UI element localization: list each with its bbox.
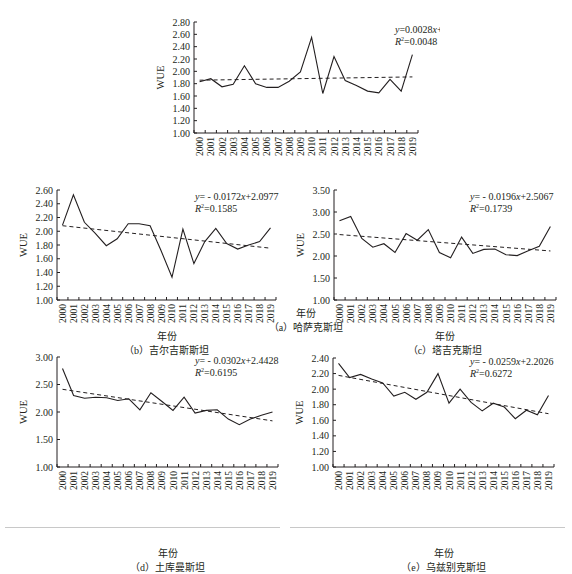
x-tick-label: 2016: [513, 304, 523, 323]
trend-line: [339, 375, 549, 413]
x-tick-label: 2017: [524, 304, 534, 323]
x-tick-label: 2014: [490, 304, 500, 323]
y-tick-label: 1.80: [36, 240, 54, 251]
x-tick-label: 2005: [113, 304, 123, 323]
x-tick-label: 2003: [368, 304, 378, 323]
y-tick-label: 1.80: [173, 78, 191, 89]
wue-line: [339, 363, 549, 418]
y-tick-label: 1.00: [36, 462, 54, 473]
trend-line: [340, 235, 551, 251]
x-tick-label: 2000: [335, 304, 345, 323]
x-tick-label: 2001: [69, 471, 79, 490]
x-tick-label: 2016: [235, 471, 245, 490]
y-axis-title: WUE: [18, 400, 29, 424]
x-tick-label: 2007: [135, 471, 145, 490]
wue-line: [63, 195, 271, 277]
y-tick-label: 3.00: [313, 207, 331, 218]
y-tick-label: 1.50: [313, 273, 331, 284]
axes: [57, 190, 276, 300]
x-axis-title: 年份: [57, 545, 278, 560]
y-tick-label: 2.50: [313, 229, 331, 240]
chart-svg: 1.001.201.401.601.802.002.202.402.602000…: [0, 150, 290, 350]
x-tick-label: 2000: [58, 471, 68, 490]
chart-caption: （d）土库曼斯坦: [57, 559, 278, 574]
x-tick-label: 2017: [244, 304, 254, 323]
r-squared: R2=0.1585: [194, 203, 237, 214]
x-tick-label: 2015: [502, 304, 512, 323]
y-tick-label: 1.80: [312, 399, 330, 410]
x-tick-label: 2002: [80, 304, 90, 323]
y-tick-label: 1.00: [36, 295, 54, 306]
wue-line: [200, 37, 413, 93]
x-tick-label: 2001: [69, 304, 79, 323]
x-tick-label: 2004: [379, 304, 389, 323]
x-tick-label: 2000: [58, 304, 68, 323]
x-tick-label: 2002: [356, 471, 366, 490]
y-tick-label: 1.00: [313, 295, 331, 306]
x-tick-label: 2012: [191, 471, 201, 490]
x-tick-label: 2018: [535, 304, 545, 323]
axes: [334, 190, 556, 300]
x-tick-label: 2015: [224, 471, 234, 490]
regression-equation: y=0.0028x+1.8536: [394, 24, 440, 35]
r-squared: R2=0.6272: [469, 368, 512, 379]
x-tick-label: 2018: [533, 471, 543, 490]
chart-panel-tajikistan: 1.001.502.002.503.003.502000200120022003…: [285, 150, 572, 350]
x-tick-label: 2018: [255, 304, 265, 323]
r-squared: R2=0.0048: [394, 36, 437, 47]
y-tick-label: 2.40: [173, 41, 191, 52]
x-tick-label: 2019: [546, 304, 556, 323]
x-tick-label: 2009: [157, 304, 167, 323]
trend-line: [63, 389, 273, 421]
x-tick-label: 2006: [124, 304, 134, 323]
y-tick-label: 1.60: [36, 253, 54, 264]
bottom-divider-right: [290, 527, 565, 528]
x-tick-label: 2014: [211, 304, 221, 323]
y-tick-label: 2.50: [36, 379, 54, 390]
x-tick-label: 2011: [180, 471, 190, 490]
x-tick-label: 2017: [246, 471, 256, 490]
y-tick-label: 1.60: [312, 415, 330, 426]
x-tick-label: 2004: [102, 471, 112, 490]
chart-caption: （e）乌兹别克斯坦: [333, 559, 554, 574]
x-tick-label: 2014: [213, 471, 223, 490]
x-tick-label: 2010: [446, 304, 456, 323]
axes: [57, 357, 278, 467]
y-axis-title: WUE: [295, 233, 306, 257]
chart-svg: 1.001.201.401.601.802.002.202.4020002001…: [285, 350, 572, 540]
x-tick-label: 2012: [189, 304, 199, 323]
y-tick-label: 2.60: [36, 185, 54, 196]
x-tick-label: 2006: [124, 471, 134, 490]
r-squared: R2=0.1739: [469, 203, 512, 214]
chart-panel-turkmenistan: 1.001.502.002.503.0020002001200220032004…: [0, 350, 290, 540]
x-tick-label: 2017: [522, 471, 532, 490]
x-tick-label: 2003: [91, 304, 101, 323]
r-squared: R2=0.6195: [194, 367, 237, 378]
x-tick-label: 2013: [200, 304, 210, 323]
chart-svg: 1.001.502.002.503.003.502000200120022003…: [285, 150, 572, 350]
x-tick-label: 2005: [389, 471, 399, 490]
x-tick-label: 2003: [91, 471, 101, 490]
y-tick-label: 1.20: [312, 446, 330, 457]
x-tick-label: 2010: [167, 304, 177, 323]
x-tick-label: 2008: [422, 471, 432, 490]
x-tick-label: 2016: [233, 304, 243, 323]
x-tick-label: 2001: [345, 471, 355, 490]
x-tick-label: 2003: [367, 471, 377, 490]
x-tick-label: 2012: [467, 471, 477, 490]
x-tick-label: 2019: [544, 471, 554, 490]
x-tick-label: 2010: [169, 471, 179, 490]
x-tick-label: 2006: [400, 471, 410, 490]
y-tick-label: 2.40: [36, 198, 54, 209]
x-tick-label: 2007: [135, 304, 145, 323]
x-tick-label: 2004: [102, 304, 112, 323]
chart-panel-uzbekistan: 1.001.201.401.601.802.002.202.4020002001…: [285, 350, 572, 540]
x-tick-label: 2008: [146, 304, 156, 323]
y-tick-label: 2.00: [36, 226, 54, 237]
x-tick-label: 2018: [257, 471, 267, 490]
x-tick-label: 2001: [346, 304, 356, 323]
x-tick-label: 2014: [489, 471, 499, 490]
x-tick-label: 2013: [202, 471, 212, 490]
y-tick-label: 2.60: [173, 29, 191, 40]
x-tick-label: 2011: [456, 471, 466, 490]
